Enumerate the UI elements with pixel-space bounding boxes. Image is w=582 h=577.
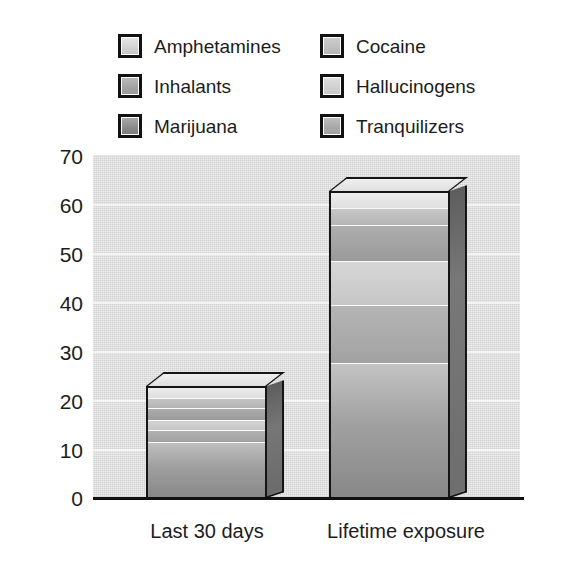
bar-2-top-face xyxy=(329,177,468,191)
bar-2-segment-tranquilizers xyxy=(331,208,448,225)
y-tick-label-60: 60 xyxy=(60,195,83,216)
bar-2-segment-marijuana xyxy=(331,363,448,500)
y-axis: 70 60 50 40 30 20 10 0 xyxy=(0,0,93,577)
bar-1-segment-amphetamines xyxy=(148,388,265,398)
bar-2-segment-cocaine xyxy=(331,225,448,261)
x-axis-line xyxy=(93,497,524,500)
bar-1-segment-cocaine xyxy=(148,408,265,420)
bar-2-segment-hallucinogens xyxy=(331,261,448,305)
bar-1-top-face xyxy=(146,372,285,386)
x-tick-label-last-30-days: Last 30 days xyxy=(120,521,294,541)
bar-2-segment-inhalants xyxy=(331,305,448,363)
plot-area: 70 60 50 40 30 20 10 0 xyxy=(0,0,582,577)
y-tick-label-40: 40 xyxy=(60,293,83,314)
bar-1-segment-hallucinogens xyxy=(148,420,265,430)
chart-figure: Amphetamines Inhalants Marijuana xyxy=(0,0,582,577)
bar-2-side-face xyxy=(450,185,467,498)
y-tick-label-30: 30 xyxy=(60,342,83,363)
x-tick-label-lifetime-exposure: Lifetime exposure xyxy=(296,521,516,541)
bar-1-segment-inhalants xyxy=(148,430,265,442)
y-tick-label-10: 10 xyxy=(60,440,83,461)
bar-1-segment-marijuana xyxy=(148,442,265,500)
y-tick-label-70: 70 xyxy=(60,146,83,167)
y-tick-label-50: 50 xyxy=(60,244,83,265)
y-tick-label-20: 20 xyxy=(60,391,83,412)
bar-1-segment-tranquilizers xyxy=(148,398,265,408)
bar-lifetime-exposure[interactable] xyxy=(329,191,450,498)
bar-2-segment-amphetamines xyxy=(331,193,448,208)
y-tick-label-0: 0 xyxy=(71,488,83,509)
bar-1-side-face xyxy=(267,380,284,498)
bar-last-30-days[interactable] xyxy=(146,386,267,498)
